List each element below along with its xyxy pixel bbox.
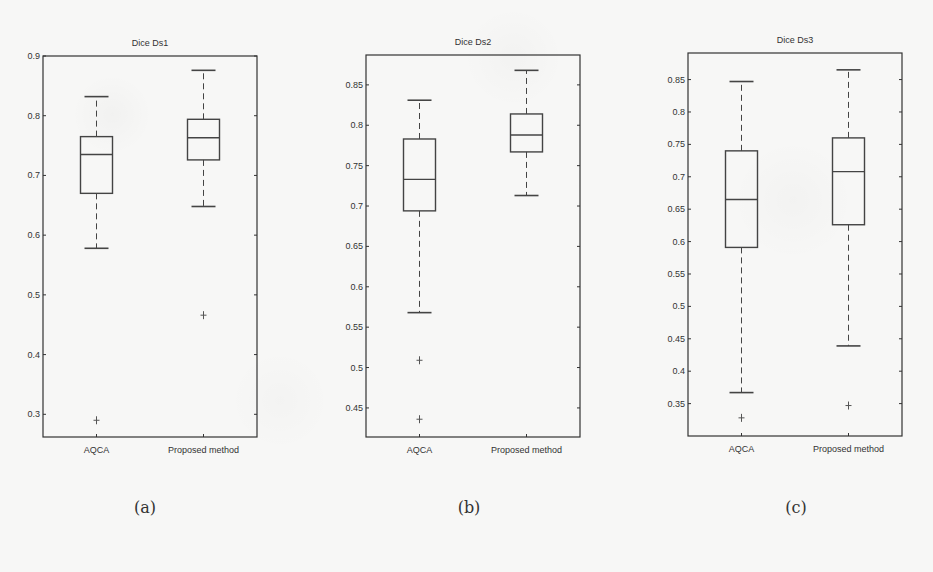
box-aqca — [81, 97, 113, 425]
x-category-label: Proposed method — [168, 445, 239, 455]
x-category-label: Proposed method — [813, 444, 884, 454]
y-tick-label: 0.45 — [345, 403, 363, 413]
y-tick-label: 0.6 — [27, 230, 40, 240]
figure-boxplots: Dice Ds10.30.40.50.60.70.80.9AQCAPropose… — [0, 0, 933, 572]
iqr-box — [188, 119, 220, 160]
outlier-marker — [417, 356, 423, 364]
y-tick-label: 0.7 — [672, 172, 685, 182]
box-aqca — [404, 100, 436, 423]
iqr-box — [511, 114, 543, 152]
axes-frame — [688, 53, 902, 436]
chart-a: Dice Ds10.30.40.50.60.70.80.9AQCAPropose… — [27, 38, 257, 455]
outlier-marker — [94, 416, 100, 424]
y-tick-label: 0.65 — [667, 204, 685, 214]
y-tick-label: 0.8 — [27, 111, 40, 121]
y-tick-label: 0.7 — [350, 201, 363, 211]
x-category-label: AQCA — [407, 445, 433, 455]
chart-title: Dice Ds3 — [777, 35, 814, 45]
y-tick-label: 0.75 — [345, 161, 363, 171]
y-tick-label: 0.7 — [27, 170, 40, 180]
outlier-marker — [739, 414, 745, 422]
y-tick-label: 0.75 — [667, 139, 685, 149]
y-tick-label: 0.3 — [27, 409, 40, 419]
x-category-label: AQCA — [729, 444, 755, 454]
y-tick-label: 0.8 — [672, 107, 685, 117]
y-tick-label: 0.85 — [345, 80, 363, 90]
y-tick-label: 0.4 — [27, 350, 40, 360]
caption-a: (a) — [134, 498, 156, 517]
chart-b: Dice Ds20.450.50.550.60.650.70.750.80.85… — [345, 37, 580, 455]
box-proposed-method — [833, 70, 865, 410]
y-tick-label: 0.6 — [350, 282, 363, 292]
chart-c: Dice Ds30.350.40.450.50.550.60.650.70.75… — [667, 35, 902, 454]
iqr-box — [404, 139, 436, 211]
y-tick-label: 0.55 — [667, 269, 685, 279]
x-category-label: AQCA — [84, 445, 110, 455]
iqr-box — [81, 137, 113, 194]
outlier-marker — [417, 415, 423, 423]
chart-title: Dice Ds2 — [455, 37, 492, 47]
axes-frame — [43, 56, 257, 437]
iqr-box — [833, 138, 865, 225]
x-category-label: Proposed method — [491, 445, 562, 455]
box-proposed-method — [511, 70, 543, 195]
chart-title: Dice Ds1 — [132, 38, 169, 48]
caption-c: (c) — [785, 498, 806, 517]
y-tick-label: 0.65 — [345, 241, 363, 251]
box-proposed-method — [188, 70, 220, 319]
y-tick-label: 0.5 — [350, 363, 363, 373]
y-tick-label: 0.55 — [345, 322, 363, 332]
y-tick-label: 0.5 — [672, 301, 685, 311]
y-tick-label: 0.6 — [672, 237, 685, 247]
outlier-marker — [201, 311, 207, 319]
y-tick-label: 0.85 — [667, 75, 685, 85]
y-tick-label: 0.9 — [27, 51, 40, 61]
y-tick-label: 0.35 — [667, 399, 685, 409]
y-tick-label: 0.45 — [667, 334, 685, 344]
caption-b: (b) — [458, 498, 481, 517]
box-aqca — [726, 82, 758, 422]
y-tick-label: 0.5 — [27, 290, 40, 300]
y-tick-label: 0.4 — [672, 366, 685, 376]
y-tick-label: 0.8 — [350, 120, 363, 130]
outlier-marker — [846, 402, 852, 410]
axes-frame — [366, 55, 580, 437]
